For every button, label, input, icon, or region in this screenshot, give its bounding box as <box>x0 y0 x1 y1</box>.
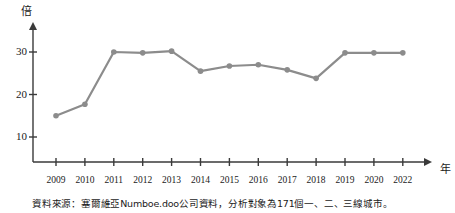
y-axis-tick-label: 20 <box>1 88 27 100</box>
x-axis-unit-label: 年 <box>440 160 451 176</box>
y-axis-tick-label: 30 <box>1 45 27 57</box>
y-axis-tick-label: 10 <box>1 130 27 142</box>
chart-source-note: 資料來源：塞爾維亞Numboe.doo公司資料，分析對象為171個一、二、三線城… <box>32 196 392 210</box>
y-axis-unit-label: 倍 <box>21 2 32 18</box>
x-axis-tick-label: 2022 <box>386 175 420 185</box>
line-chart: 倍 年 102030200920102011201220132014201520… <box>0 0 455 213</box>
